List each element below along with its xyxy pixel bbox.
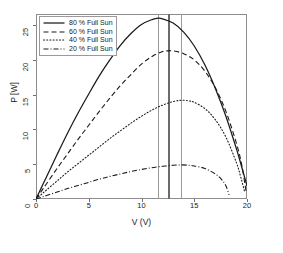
legend-item-label: 60 % Full Sun [69,28,113,36]
legend-line-swatch [43,28,65,36]
x-axis-label: V (V) [36,218,247,227]
y-tick-label: 10 [22,132,30,140]
legend-line-swatch [43,19,65,27]
y-tick-mark [33,60,36,61]
y-tick-label-wrap: 10 [0,124,30,142]
legend-item: 20 % Full Sun [43,45,113,54]
legend-box: 80 % Full Sun60 % Full Sun40 % Full Sun2… [39,16,117,56]
y-tick-label: 20 [22,63,30,71]
y-tick-label-wrap: 5 [0,159,30,177]
legend-line-swatch [43,36,65,44]
legend-item-label: 40 % Full Sun [69,36,113,44]
legend-item: 60 % Full Sun [43,28,113,37]
legend-line-swatch [43,45,65,53]
y-tick-mark [33,129,36,130]
y-tick-label: 15 [22,98,30,106]
y-tick-mark [33,95,36,96]
legend-item: 80 % Full Sun [43,19,113,28]
legend-item: 40 % Full Sun [43,36,113,45]
y-tick-mark [33,164,36,165]
curve-series-2 [36,100,245,199]
x-tick-label: 20 [235,202,259,210]
y-axis-label: P [W] [10,63,19,123]
y-tick-label: 5 [24,169,32,173]
x-tick-label: 10 [130,202,154,210]
y-tick-label-wrap: 25 [0,20,30,38]
curve-series-1 [36,51,246,199]
legend-item-label: 20 % Full Sun [69,45,113,53]
x-tick-label: 0 [24,202,48,210]
y-tick-mark [33,25,36,26]
power-voltage-chart: 0510152025 05101520 P [W] V (V) 80 % Ful… [0,0,283,253]
y-tick-label: 25 [22,28,30,36]
x-tick-label: 5 [77,202,101,210]
x-tick-label: 15 [182,202,206,210]
legend-item-label: 80 % Full Sun [69,19,113,27]
curve-series-3 [36,165,229,199]
